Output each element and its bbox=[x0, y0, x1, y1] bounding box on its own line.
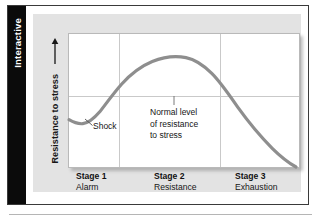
interactive-tab[interactable]: Interactive bbox=[8, 6, 26, 204]
annotation-shock: Shock bbox=[93, 121, 117, 131]
chart-area: Resistance to stress Shock Normal level … bbox=[0, 0, 322, 220]
x-axis-stage-3-sublabel: Exhaustion bbox=[235, 182, 278, 193]
y-axis-label-text: Resistance to stress bbox=[51, 74, 60, 164]
figure-page: Interactive Resistance to stress bbox=[0, 0, 322, 220]
y-axis-label: Resistance to stress bbox=[47, 40, 63, 164]
interactive-tab-label: Interactive bbox=[12, 18, 23, 68]
x-axis-stage-labels: Stage 1 Alarm Stage 2 Resistance Stage 3… bbox=[68, 171, 300, 197]
bottom-separator-rule bbox=[9, 214, 312, 215]
plot-panel bbox=[68, 33, 300, 168]
x-axis-stage-3: Stage 3 Exhaustion bbox=[235, 171, 278, 193]
x-axis-stage-2-title: Stage 2 bbox=[154, 171, 197, 182]
annotation-normal-level-line3: to stress bbox=[150, 130, 198, 142]
x-axis-stage-2-sublabel: Resistance bbox=[154, 182, 197, 193]
x-axis-stage-1-title: Stage 1 bbox=[76, 171, 107, 182]
annotation-normal-level: Normal level of resistance to stress bbox=[150, 107, 198, 142]
annotation-normal-level-line2: of resistance bbox=[150, 119, 198, 131]
x-axis-stage-3-title: Stage 3 bbox=[235, 171, 278, 182]
x-axis-stage-2: Stage 2 Resistance bbox=[154, 171, 197, 193]
stress-response-curve bbox=[69, 34, 299, 167]
x-axis-stage-1: Stage 1 Alarm bbox=[76, 171, 107, 193]
x-axis-stage-1-sublabel: Alarm bbox=[76, 182, 107, 193]
annotation-normal-level-line1: Normal level bbox=[150, 107, 198, 119]
